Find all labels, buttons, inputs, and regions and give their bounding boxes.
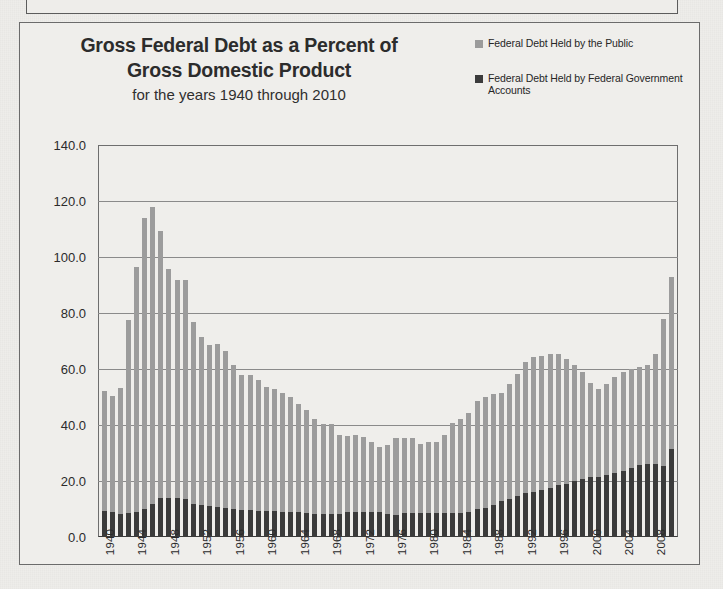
bar-column[interactable] <box>432 145 440 537</box>
bar-column[interactable] <box>360 145 368 537</box>
bar-column[interactable] <box>351 145 359 537</box>
bar-column[interactable] <box>189 145 197 537</box>
legend-item-public[interactable]: Federal Debt Held by the Public <box>475 37 690 50</box>
bar-column[interactable] <box>643 145 651 537</box>
bar-segment-government <box>377 512 382 537</box>
bar-column[interactable] <box>538 145 546 537</box>
bar-column[interactable] <box>246 145 254 537</box>
bar-column[interactable] <box>149 145 157 537</box>
bar-segment-public <box>612 377 617 474</box>
bar-column[interactable] <box>311 145 319 537</box>
bar-column[interactable] <box>278 145 286 537</box>
bar-column[interactable] <box>651 145 659 537</box>
bar-column[interactable] <box>392 145 400 537</box>
bar-column[interactable] <box>384 145 392 537</box>
bar-column[interactable] <box>343 145 351 537</box>
x-axis-tick-slot: 2004 <box>619 539 627 585</box>
bar-column[interactable] <box>254 145 262 537</box>
bar-column[interactable] <box>449 145 457 537</box>
bar-column[interactable] <box>441 145 449 537</box>
bar-stack <box>296 145 301 537</box>
bar-column[interactable] <box>562 145 570 537</box>
bar-column[interactable] <box>327 145 335 537</box>
bar-segment-public <box>475 401 480 509</box>
bar-column[interactable] <box>335 145 343 537</box>
bar-segment-government <box>345 512 350 537</box>
bar-column[interactable] <box>376 145 384 537</box>
x-axis-tick-slot <box>319 539 327 585</box>
bar-column[interactable] <box>473 145 481 537</box>
bar-segment-public <box>629 369 634 469</box>
bar-column[interactable] <box>587 145 595 537</box>
bar-column[interactable] <box>124 145 132 537</box>
bar-column[interactable] <box>530 145 538 537</box>
bar-column[interactable] <box>424 145 432 537</box>
bar-stack <box>191 145 196 537</box>
bar-column[interactable] <box>238 145 246 537</box>
bar-segment-government <box>321 514 326 537</box>
bar-column[interactable] <box>116 145 124 537</box>
bar-column[interactable] <box>262 145 270 537</box>
bar-column[interactable] <box>214 145 222 537</box>
bar-column[interactable] <box>132 145 140 537</box>
bar-column[interactable] <box>197 145 205 537</box>
bar-column[interactable] <box>497 145 505 537</box>
bar-segment-government <box>353 512 358 537</box>
bar-segment-public <box>491 394 496 505</box>
bar-column[interactable] <box>230 145 238 537</box>
bar-stack <box>175 145 180 537</box>
bar-column[interactable] <box>100 145 108 537</box>
bar-column[interactable] <box>619 145 627 537</box>
bar-column[interactable] <box>465 145 473 537</box>
bar-column[interactable] <box>522 145 530 537</box>
bar-column[interactable] <box>303 145 311 537</box>
bar-column[interactable] <box>222 145 230 537</box>
bar-column[interactable] <box>668 145 676 537</box>
bar-segment-government <box>118 514 123 537</box>
bar-column[interactable] <box>570 145 578 537</box>
y-axis-tick-label: 140.0 <box>53 138 86 153</box>
bar-column[interactable] <box>595 145 603 537</box>
bar-column[interactable] <box>578 145 586 537</box>
bar-column[interactable] <box>108 145 116 537</box>
bar-column[interactable] <box>627 145 635 537</box>
x-axis-tick-slot <box>157 539 165 585</box>
bar-column[interactable] <box>181 145 189 537</box>
x-axis-tick-slot <box>603 539 611 585</box>
x-axis-tick-slot <box>238 539 246 585</box>
y-axis-tick-label: 100.0 <box>53 250 86 265</box>
chart-title-line-1: Gross Federal Debt as a Percent of <box>54 33 424 58</box>
bar-stack <box>369 145 374 537</box>
bar-column[interactable] <box>165 145 173 537</box>
bar-column[interactable] <box>546 145 554 537</box>
bar-column[interactable] <box>611 145 619 537</box>
bar-column[interactable] <box>408 145 416 537</box>
bar-column[interactable] <box>660 145 668 537</box>
bar-column[interactable] <box>505 145 513 537</box>
bar-column[interactable] <box>270 145 278 537</box>
bar-column[interactable] <box>603 145 611 537</box>
bar-column[interactable] <box>416 145 424 537</box>
bar-column[interactable] <box>157 145 165 537</box>
bar-column[interactable] <box>635 145 643 537</box>
bar-column[interactable] <box>514 145 522 537</box>
bar-column[interactable] <box>287 145 295 537</box>
bar-column[interactable] <box>319 145 327 537</box>
bar-column[interactable] <box>489 145 497 537</box>
bar-segment-public <box>393 438 398 514</box>
bar-column[interactable] <box>141 145 149 537</box>
legend-label-government: Federal Debt Held by Federal Government … <box>488 72 690 97</box>
bar-segment-public <box>134 267 139 512</box>
bar-column[interactable] <box>400 145 408 537</box>
bar-column[interactable] <box>554 145 562 537</box>
x-axis-tick-slot <box>432 539 440 585</box>
bar-column[interactable] <box>205 145 213 537</box>
bar-column[interactable] <box>368 145 376 537</box>
bar-column[interactable] <box>295 145 303 537</box>
y-axis-tick-label: 20.0 <box>61 474 86 489</box>
bar-column[interactable] <box>173 145 181 537</box>
legend-item-government[interactable]: Federal Debt Held by Federal Government … <box>475 72 690 97</box>
bar-column[interactable] <box>481 145 489 537</box>
x-axis-tick-slot <box>578 539 586 585</box>
bar-column[interactable] <box>457 145 465 537</box>
